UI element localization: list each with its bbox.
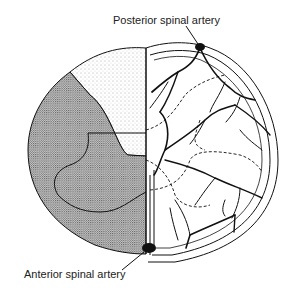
territory-boundaries (146, 75, 262, 207)
spinal-cord-diagram (0, 0, 292, 290)
posterior-spinal-artery (186, 26, 205, 51)
anterior-spinal-artery-label: Anterior spinal artery (24, 268, 126, 280)
arterial-branches (150, 48, 270, 248)
right-outer-vessel (146, 43, 278, 262)
posterior-spinal-artery-label: Posterior spinal artery (113, 14, 220, 26)
right-inner-vessel (150, 50, 270, 255)
